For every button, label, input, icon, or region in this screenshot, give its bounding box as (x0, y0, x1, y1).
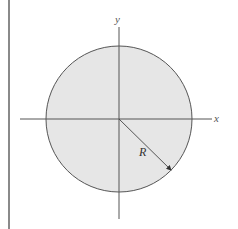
x-axis-label: x (214, 113, 219, 124)
y-axis-label: y (115, 14, 120, 25)
radius-label: R (139, 146, 146, 158)
circle-diagram (0, 0, 238, 229)
